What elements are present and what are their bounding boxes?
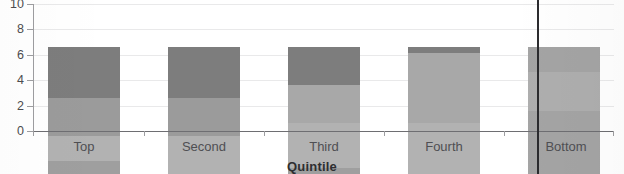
y-tick-label-10: 10 [0,0,24,11]
y-tick-mark-4 [27,80,33,81]
x-tick-mark-2 [264,131,265,136]
x-tick-mark-3 [384,131,385,136]
stacked-bar-chart: 10 8 6 4 2 0 Top Second Third Fourth Bot… [0,0,624,174]
bar-fourth [408,47,480,174]
y-tick-label-8: 8 [0,23,24,36]
y-tick-label-0: 0 [0,125,24,138]
bar-second [168,47,240,174]
x-category-label-second: Second [160,140,248,153]
x-category-label-top: Top [48,140,120,153]
x-tick-mark-4 [504,131,505,136]
y-tick-mark-10 [27,4,33,5]
bar-second-seg-4 [168,47,240,98]
gridline-8 [33,29,614,30]
y-tick-label-2: 2 [0,100,24,113]
x-axis-title: Quintile [0,160,624,173]
x-tick-mark-1 [144,131,145,136]
y-tick-mark-6 [27,55,33,56]
bar-third [288,47,360,174]
y-tick-label-4: 4 [0,74,24,87]
x-axis-line [33,131,614,132]
bar-top [48,47,120,174]
bar-third-seg-4 [288,47,360,85]
bar-top-seg-4 [48,47,120,98]
gridline-10 [33,4,614,5]
scan-artifact-line [537,0,539,174]
y-axis-line [33,4,34,131]
x-tick-mark-5 [613,131,614,136]
x-category-label-fourth: Fourth [404,140,484,153]
y-tick-mark-8 [27,29,33,30]
x-category-label-third: Third [288,140,360,153]
x-tick-mark-0 [33,131,34,136]
y-tick-label-6: 6 [0,49,24,62]
bar-fourth-seg-3 [408,53,480,123]
y-tick-mark-2 [27,106,33,107]
bar-third-seg-3 [288,85,360,123]
